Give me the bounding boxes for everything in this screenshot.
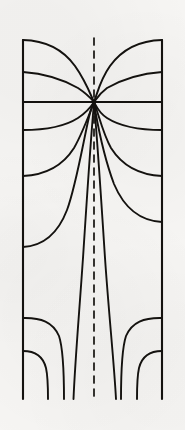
tail-right-inner-path	[94, 103, 116, 399]
lower-fan-3-right-path	[94, 102, 162, 222]
lower-fan-1-left-path	[23, 102, 94, 130]
bottom-shoulder-left-path	[23, 318, 64, 399]
lower-fan-2-right-path	[94, 102, 162, 176]
bottom-corner-curves	[23, 351, 162, 399]
bottom-corner-right-path	[137, 351, 162, 399]
bottom-shoulder-curves	[23, 318, 162, 399]
tail-left-inner-path	[74, 103, 95, 399]
bottom-shoulder-right-path	[121, 318, 162, 399]
bottom-corner-left-path	[23, 351, 48, 399]
upper-lobe-right-path	[94, 40, 162, 102]
figure-root	[0, 0, 185, 430]
lower-fan-1-right-path	[94, 102, 162, 130]
streamline-plot	[0, 0, 185, 430]
upper-chord-left-path	[23, 72, 94, 102]
upper-lobe-curves	[23, 40, 162, 102]
frame-rails	[23, 40, 162, 399]
